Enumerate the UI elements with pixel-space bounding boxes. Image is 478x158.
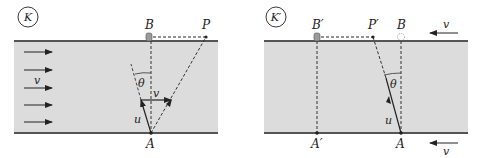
u-label: u: [385, 114, 392, 127]
theta-label: θ: [138, 77, 145, 90]
point-p-label: P: [201, 18, 211, 32]
point-a-prime-label: A′: [310, 137, 323, 151]
right-panel: K′ B′ P′ B v θ u A′ A v: [264, 7, 468, 158]
ghost-boat-icon: [398, 34, 405, 41]
point-a-label: A: [395, 137, 405, 151]
point-a-label: A: [145, 137, 155, 151]
boat-icon: [146, 33, 152, 41]
point-b-prime-label: B′: [311, 18, 324, 32]
current-velocity-label: v: [34, 74, 41, 87]
point-a-dot: [149, 131, 153, 135]
theta-label: θ: [390, 78, 397, 91]
svg-text:K′: K′: [270, 11, 282, 24]
frame-label-k: K: [18, 7, 38, 27]
point-b-label: B: [144, 18, 154, 32]
svg-text:K: K: [23, 11, 33, 24]
point-b-label: B: [396, 18, 406, 32]
relative-velocity-diagram: K v B P θ u v: [0, 0, 478, 158]
point-a-dot: [399, 131, 403, 135]
river-band: [264, 41, 468, 133]
u-label: u: [134, 113, 141, 126]
left-panel: K v B P θ u v: [14, 7, 218, 151]
point-p-prime-label: P′: [367, 18, 379, 32]
frame-label-k-prime: K′: [266, 7, 286, 27]
river-band: [14, 41, 218, 133]
v-top-label: v: [443, 18, 450, 31]
v-bottom-label: v: [443, 145, 450, 158]
boat-icon: [314, 33, 320, 41]
v-label: v: [153, 87, 160, 100]
point-a-prime-dot: [315, 131, 319, 135]
